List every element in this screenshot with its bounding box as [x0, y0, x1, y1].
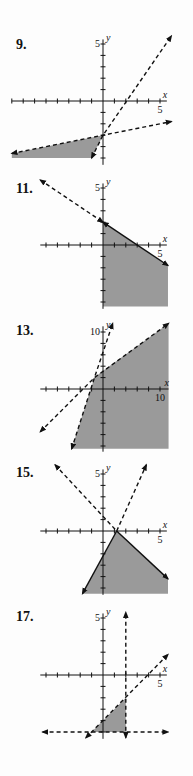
x-axis-label: x: [162, 89, 168, 100]
x-tick-label: 10: [155, 392, 165, 403]
y-axis-label: y: [105, 176, 111, 187]
boundary-line-dashed: [86, 654, 168, 737]
textbook-answer-page: 9. 11. 13. 15. 17. yx55 yx55 yx1010 yx55…: [0, 0, 193, 776]
shaded-solution-region: [103, 222, 168, 306]
boundary-line-dashed: [55, 465, 117, 531]
x-axis-label: x: [162, 233, 168, 244]
y-tick-label: 5: [95, 182, 100, 193]
y-axis-label: y: [105, 32, 111, 43]
graph-problem-9: yx55: [12, 32, 172, 164]
x-tick-label: 5: [158, 104, 163, 115]
boundary-line-dashed: [40, 180, 103, 222]
x-tick-label: 5: [158, 534, 163, 545]
y-axis-label: y: [105, 606, 111, 617]
graphs-canvas: yx55 yx55 yx1010 yx55 yx55: [0, 0, 193, 776]
y-tick-label: 5: [95, 468, 100, 479]
x-tick-label: 5: [158, 248, 163, 259]
x-axis-label: x: [162, 519, 168, 530]
boundary-line-dashed: [117, 465, 147, 531]
x-tick-label: 5: [158, 678, 163, 689]
y-tick-label: 5: [95, 612, 100, 623]
graph-problem-15: yx55: [40, 462, 168, 594]
y-tick-label: 5: [95, 38, 100, 49]
x-axis-label: x: [162, 663, 168, 674]
y-axis-label: y: [105, 319, 111, 330]
y-axis-label: y: [105, 462, 111, 473]
y-tick-label: 10: [90, 326, 100, 337]
graph-problem-13: yx1010: [40, 319, 169, 451]
graph-problem-11: yx55: [40, 176, 168, 308]
x-axis-label: x: [164, 377, 170, 388]
graph-problem-17: yx55: [40, 606, 168, 738]
shaded-solution-region: [82, 531, 167, 594]
boundary-line-dashed: [92, 36, 172, 158]
